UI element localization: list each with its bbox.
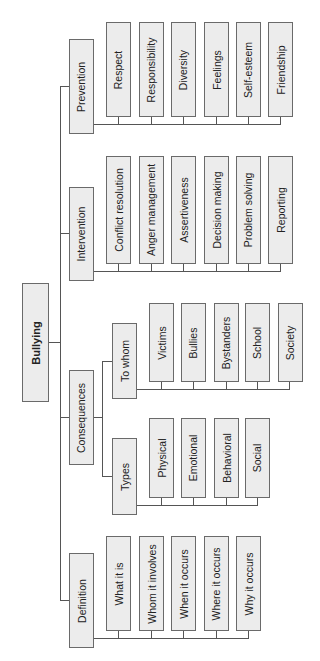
leaf-label: Physical xyxy=(156,438,168,477)
leaf-physical: Physical xyxy=(149,418,174,498)
leaf-responsibility: Responsibility xyxy=(139,22,164,117)
leaf-label: Why it occurs xyxy=(243,552,255,615)
leaf-what-it-is: What it is xyxy=(106,536,131,631)
node-consequences: Consequences xyxy=(69,370,94,465)
connector-definition xyxy=(60,600,69,601)
connector-consequences xyxy=(60,417,69,418)
leaf-label: Respect xyxy=(113,50,125,89)
leaf-label: Victims xyxy=(156,326,168,360)
stub xyxy=(280,116,281,124)
stub xyxy=(183,630,184,638)
stub xyxy=(280,263,281,271)
stub xyxy=(183,116,184,124)
stub xyxy=(257,381,258,389)
root-label: Bullying xyxy=(30,321,42,364)
leaf-label: Society xyxy=(285,325,297,359)
bus-to-whom xyxy=(137,389,290,390)
stub xyxy=(151,263,152,271)
node-label: Consequences xyxy=(76,382,88,452)
leaf-label: When it occurs xyxy=(178,549,190,618)
leaf-self-esteem: Self-esteem xyxy=(236,22,261,117)
node-label: Types xyxy=(119,462,131,490)
leaf-label: Assertiveness xyxy=(178,177,190,242)
leaf-feelings: Feelings xyxy=(204,22,229,117)
node-to-whom: To whom xyxy=(112,323,137,399)
leaf-whom-it-involves: Whom it involves xyxy=(139,536,164,631)
leaf-label: Emotional xyxy=(188,435,200,482)
leaf-conflict-resolution: Conflict resolution xyxy=(106,156,131,264)
leaf-label: School xyxy=(252,326,264,358)
stub xyxy=(118,263,119,271)
leaf-bullies: Bullies xyxy=(181,303,206,382)
stub xyxy=(183,263,184,271)
stub xyxy=(151,630,152,638)
node-intervention: Intervention xyxy=(69,187,94,281)
stub xyxy=(257,497,258,505)
stub xyxy=(248,263,249,271)
leaf-label: Behavioral xyxy=(221,433,233,483)
leaf-behavioral: Behavioral xyxy=(214,418,239,498)
leaf-label: What it is xyxy=(113,562,125,605)
leaf-victims: Victims xyxy=(149,303,174,382)
leaf-respect: Respect xyxy=(106,22,131,117)
leaf-where-it-occurs: Where it occurs xyxy=(204,536,229,631)
leaf-problem-solving: Problem solving xyxy=(236,156,261,264)
stub xyxy=(289,381,290,389)
leaf-anger-management: Anger management xyxy=(139,156,164,264)
leaf-label: Diversity xyxy=(178,49,190,89)
stub xyxy=(226,381,227,389)
leaf-label: Conflict resolution xyxy=(113,168,125,251)
stub xyxy=(216,630,217,638)
leaf-label: Responsibility xyxy=(146,37,158,102)
stub xyxy=(216,263,217,271)
leaf-label: Feelings xyxy=(211,50,223,90)
leaf-school: School xyxy=(245,303,270,382)
bus-definition xyxy=(94,638,249,639)
connector-intervention xyxy=(60,233,69,234)
leaf-when-it-occurs: When it occurs xyxy=(171,536,196,631)
leaf-decision-making: Decision making xyxy=(204,156,229,264)
leaf-label: Decision making xyxy=(211,171,223,248)
stub xyxy=(151,116,152,124)
leaf-label: Where it occurs xyxy=(211,547,223,620)
bus-intervention xyxy=(94,271,281,272)
leaf-reporting: Reporting xyxy=(268,156,293,264)
leaf-label: Anger management xyxy=(146,164,158,256)
stub xyxy=(118,630,119,638)
root-node-bullying: Bullying xyxy=(22,283,49,402)
leaf-label: Reporting xyxy=(275,187,287,233)
consequences-sub-spine xyxy=(102,361,103,477)
stub xyxy=(226,497,227,505)
leaf-label: Whom it involves xyxy=(146,544,158,623)
node-label: Definition xyxy=(76,579,88,623)
node-label: To whom xyxy=(119,340,131,382)
stub xyxy=(118,116,119,124)
bus-prevention xyxy=(94,124,281,125)
leaf-label: Bullies xyxy=(188,327,200,358)
stub xyxy=(248,630,249,638)
stub xyxy=(193,381,194,389)
node-label: Prevention xyxy=(76,61,88,111)
leaf-assertiveness: Assertiveness xyxy=(171,156,196,264)
stub xyxy=(193,497,194,505)
leaf-label: Self-esteem xyxy=(243,41,255,97)
node-types: Types xyxy=(112,438,137,515)
leaf-label: Problem solving xyxy=(243,173,255,248)
connector-types xyxy=(102,476,112,477)
connector-prevention xyxy=(60,86,69,87)
stub xyxy=(248,116,249,124)
node-prevention: Prevention xyxy=(69,39,94,134)
leaf-diversity: Diversity xyxy=(171,22,196,117)
bus-types xyxy=(137,505,258,506)
leaf-why-it-occurs: Why it occurs xyxy=(236,536,261,631)
leaf-friendship: Friendship xyxy=(268,22,293,117)
node-definition: Definition xyxy=(69,553,94,648)
root-connector xyxy=(48,342,61,343)
stub xyxy=(161,497,162,505)
main-spine xyxy=(60,86,61,601)
leaf-bystanders: Bystanders xyxy=(214,303,239,382)
node-label: Intervention xyxy=(76,207,88,262)
leaf-label: Friendship xyxy=(275,45,287,94)
leaf-label: Bystanders xyxy=(221,316,233,369)
stub xyxy=(216,116,217,124)
